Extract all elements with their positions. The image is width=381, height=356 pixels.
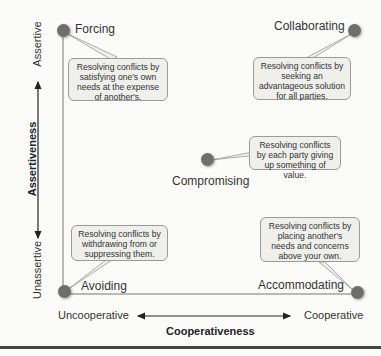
compromising-description-bubble: Resolving conflicts by each party giving… — [249, 136, 341, 170]
avoiding-dot — [58, 285, 71, 298]
cooperativeness-axis-title: Cooperativeness — [166, 325, 255, 337]
accommodating-label: Accommodating — [258, 278, 344, 292]
uncooperative-label: Uncooperative — [58, 309, 129, 321]
compromising-label: Compromising — [172, 174, 249, 188]
avoiding-label: Avoiding — [81, 279, 127, 293]
accommodating-description-bubble: Resolving conflicts by placing another's… — [260, 217, 360, 262]
forcing-label: Forcing — [75, 22, 115, 36]
collaborating-dot — [348, 24, 361, 37]
avoiding-description-bubble: Resolving conflicts by withdrawing from … — [71, 225, 168, 261]
assertiveness-axis-title: Assertiveness — [26, 119, 38, 199]
forcing-dot — [57, 24, 70, 37]
unassertive-label: Unassertive — [31, 240, 43, 300]
assertive-label: Assertive — [31, 19, 43, 69]
forcing-description-bubble: Resolving conflicts by satisfying one's … — [68, 58, 168, 101]
accommodating-dot — [351, 286, 364, 299]
collaborating-label: Collaborating — [274, 19, 345, 33]
bottom-divider — [0, 346, 381, 349]
collaborating-description-bubble: Resolving conflicts by seeking an advant… — [253, 57, 351, 100]
compromising-dot — [201, 153, 214, 166]
cooperative-label: Cooperative — [304, 309, 363, 321]
